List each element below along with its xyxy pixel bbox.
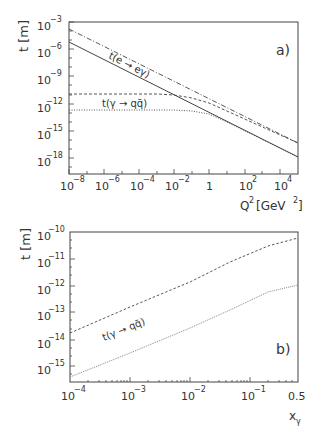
svg-text:4: 4 — [287, 175, 292, 184]
panel-b-ylabel: t [m] — [18, 228, 33, 260]
svg-text:10: 10 — [95, 180, 109, 193]
svg-text:−12: −12 — [48, 279, 65, 288]
svg-text:2: 2 — [249, 196, 254, 205]
svg-text:10: 10 — [121, 390, 135, 403]
panel-b-annotation-gamma-qq: t(γ → qq̄) — [101, 316, 147, 343]
panel-b-x-ticks — [88, 377, 292, 382]
svg-text:−3: −3 — [50, 15, 62, 24]
panel-b-y-ticks — [70, 240, 75, 374]
svg-text:[GeV: [GeV — [256, 199, 286, 213]
svg-text:−18: −18 — [46, 151, 63, 160]
panel-b-x-tick-labels: 10−4 10−3 10−2 10−1 0.5 — [61, 385, 306, 403]
svg-text:−14: −14 — [48, 333, 65, 342]
svg-text:10: 10 — [37, 74, 51, 87]
svg-text:10: 10 — [274, 180, 288, 193]
svg-text:1: 1 — [206, 180, 213, 193]
svg-text:−2: −2 — [194, 385, 206, 394]
panel-b-y-tick-labels: 10−10 10−11 10−12 10−13 10−14 10−15 — [37, 225, 65, 377]
svg-text:10: 10 — [61, 390, 75, 403]
panel-a-x-tick-labels: 10−8 10−6 10−4 10−2 1 102 104 — [60, 175, 292, 193]
svg-text:−4: −4 — [143, 175, 155, 184]
svg-text:−9: −9 — [50, 69, 62, 78]
svg-text:−2: −2 — [178, 175, 190, 184]
panel-a: 10−3 10−6 10−9 10−12 10−15 10−18 10−8 10… — [16, 15, 303, 213]
svg-text:−12: −12 — [46, 97, 63, 106]
svg-text:10: 10 — [37, 20, 51, 33]
panel-b-xlabel: x γ — [289, 409, 301, 426]
svg-text:10: 10 — [241, 390, 255, 403]
svg-text:0.5: 0.5 — [288, 390, 306, 403]
svg-text:−15: −15 — [48, 359, 65, 368]
svg-text:10: 10 — [60, 180, 74, 193]
svg-text:10: 10 — [181, 390, 195, 403]
panel-a-x-ticks — [69, 169, 280, 174]
svg-text:γ: γ — [296, 417, 301, 426]
svg-text:10: 10 — [239, 180, 253, 193]
svg-text:−6: −6 — [108, 175, 120, 184]
svg-text:10: 10 — [130, 180, 144, 193]
panel-a-ylabel: t [m] — [16, 20, 31, 52]
panel-b: 10−10 10−11 10−12 10−13 10−14 10−15 10−4… — [18, 225, 306, 426]
dashed-line — [70, 238, 298, 333]
svg-text:−6: −6 — [50, 42, 62, 51]
svg-text:−15: −15 — [46, 124, 63, 133]
panel-b-frame — [70, 232, 298, 382]
svg-text:−11: −11 — [48, 252, 65, 261]
svg-text:−4: −4 — [74, 385, 86, 394]
panel-a-y-tick-labels: 10−3 10−6 10−9 10−12 10−15 10−18 — [37, 15, 63, 169]
svg-text:−1: −1 — [254, 385, 266, 394]
panel-a-lines — [69, 29, 298, 157]
svg-text:−10: −10 — [48, 225, 65, 234]
svg-text:2: 2 — [252, 175, 257, 184]
panel-a-xlabel: Q 2 [GeV 2 ] — [240, 196, 303, 213]
svg-text:]: ] — [298, 199, 303, 213]
panel-b-lines — [70, 238, 298, 377]
svg-text:−13: −13 — [48, 305, 65, 314]
svg-text:10: 10 — [165, 180, 179, 193]
svg-text:10: 10 — [37, 47, 51, 60]
gamma-qq-dotted-line — [69, 110, 298, 157]
svg-text:−8: −8 — [73, 175, 85, 184]
svg-text:−3: −3 — [134, 385, 146, 394]
e-egamma-dashdot-line — [69, 29, 298, 143]
panel-a-label: a) — [276, 42, 290, 58]
figure: 10−3 10−6 10−9 10−12 10−15 10−18 10−8 10… — [0, 0, 320, 443]
panel-a-annotation-gamma-qq: t(γ → qq̄) — [102, 98, 147, 109]
panel-b-label: b) — [276, 341, 290, 357]
